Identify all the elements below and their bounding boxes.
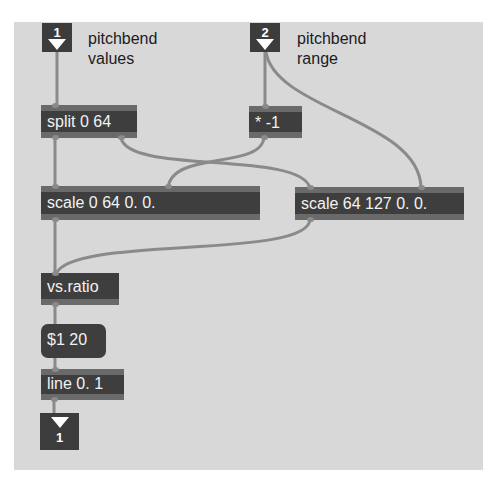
scale-low-label: scale 0 64 0. 0.: [47, 194, 156, 212]
split-object[interactable]: split 0 64: [41, 105, 137, 138]
line-object[interactable]: line 0. 1: [41, 369, 124, 400]
down-arrow-icon: [48, 39, 66, 50]
split-label: split 0 64: [47, 113, 111, 131]
outlet-1-number: 1: [40, 431, 79, 445]
vsratio-label: vs.ratio: [47, 278, 99, 296]
message-box[interactable]: $1 20: [41, 324, 106, 358]
inlet-2-comment: pitchbend range: [297, 29, 366, 69]
outlet-port[interactable]: [261, 135, 268, 140]
inlet-port[interactable]: [165, 184, 172, 189]
outlet-1[interactable]: 1: [40, 413, 79, 450]
down-arrow-icon: [51, 417, 69, 428]
outlet-port[interactable]: [51, 397, 58, 402]
inlet-1-number: 1: [42, 26, 72, 40]
vsratio-object[interactable]: vs.ratio: [41, 273, 119, 305]
inlet-port[interactable]: [52, 367, 59, 372]
scale-low-object[interactable]: scale 0 64 0. 0.: [41, 186, 260, 220]
down-arrow-icon: [256, 39, 274, 50]
inlet-port[interactable]: [262, 104, 269, 109]
outlet-port[interactable]: [307, 217, 314, 222]
outlet-port[interactable]: [118, 135, 125, 140]
inlet-port[interactable]: [418, 185, 425, 190]
outlet-port[interactable]: [52, 302, 59, 307]
scale-high-object[interactable]: scale 64 127 0. 0.: [295, 187, 464, 220]
multiply-object[interactable]: * -1: [249, 106, 302, 138]
inlet-port[interactable]: [52, 103, 59, 108]
outlet-port[interactable]: [52, 135, 59, 140]
multiply-label: * -1: [255, 114, 280, 132]
message-label: $1 20: [47, 331, 87, 349]
inlet-1[interactable]: 1: [42, 23, 72, 52]
inlet-2[interactable]: 2: [250, 23, 280, 52]
inlet-port[interactable]: [52, 271, 59, 276]
line-label: line 0. 1: [47, 375, 103, 393]
outlet-port[interactable]: [52, 217, 59, 222]
inlet-2-number: 2: [250, 26, 280, 40]
inlet-port[interactable]: [307, 185, 314, 190]
patcher-canvas[interactable]: [14, 22, 483, 470]
inlet-port[interactable]: [52, 184, 59, 189]
inlet-1-comment: pitchbend values: [88, 29, 157, 69]
scale-high-label: scale 64 127 0. 0.: [301, 195, 427, 213]
